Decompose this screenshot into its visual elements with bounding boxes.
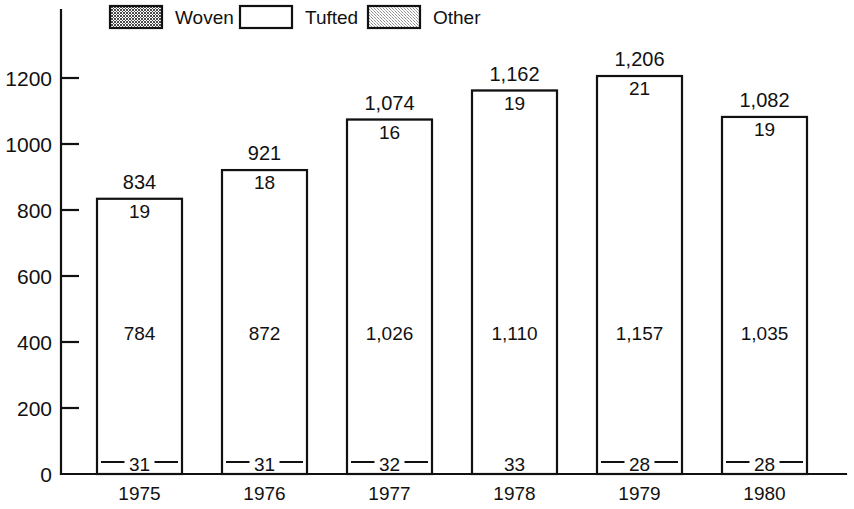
bar-segment-label-woven-1980: 19 <box>754 119 775 140</box>
bars-layer: 834197843192118872311,074161,026321,1621… <box>97 48 807 475</box>
bar-segment-label-tufted-1978: 1,110 <box>491 323 537 344</box>
bar-segment-label-tufted-1979: 1,157 <box>616 323 664 344</box>
y-tick-label-200: 200 <box>17 397 52 420</box>
x-axis-label-1975: 1975 <box>118 483 160 504</box>
bar-segment-label-other-1978: 33 <box>504 454 525 475</box>
legend-entry-woven: Woven <box>110 6 234 28</box>
bar-outline-1979 <box>597 76 682 474</box>
y-tick-label-1000: 1000 <box>5 133 52 156</box>
bar-outline-1980 <box>722 117 807 474</box>
bar-segment-label-tufted-1977: 1,026 <box>366 323 414 344</box>
x-axis-category-labels: 197519761977197819791980 <box>118 483 785 504</box>
legend-label-other: Other <box>433 7 481 28</box>
bar-group-1980: 1,082191,03528 <box>722 89 807 475</box>
bar-total-label-1977: 1,074 <box>364 92 414 114</box>
legend-label-tufted: Tufted <box>305 7 358 28</box>
chart-canvas: Woven Tufted Other 020040060080010001200… <box>0 0 854 509</box>
legend-swatch-tufted <box>240 6 292 28</box>
bar-segment-label-woven-1977: 16 <box>379 122 400 143</box>
bar-segment-label-other-1975: 31 <box>129 454 150 475</box>
bar-segment-label-woven-1978: 19 <box>504 93 525 114</box>
bar-group-1979: 1,206211,15728 <box>597 48 682 475</box>
bar-group-1978: 1,162191,11033 <box>472 63 557 475</box>
bar-segment-label-tufted-1976: 872 <box>249 323 281 344</box>
y-axis-tick-labels: 020040060080010001200 <box>5 67 52 486</box>
bar-total-label-1979: 1,206 <box>614 48 664 70</box>
bar-segment-label-woven-1976: 18 <box>254 172 275 193</box>
bar-segment-label-other-1979: 28 <box>629 454 650 475</box>
bar-segment-label-other-1976: 31 <box>254 454 275 475</box>
bar-outline-1977 <box>347 120 432 474</box>
legend-swatch-other <box>368 6 420 28</box>
x-axis-label-1977: 1977 <box>368 483 410 504</box>
bar-segment-label-other-1977: 32 <box>379 454 400 475</box>
legend-swatch-woven <box>110 6 162 28</box>
y-tick-label-600: 600 <box>17 265 52 288</box>
bar-segment-label-woven-1975: 19 <box>129 201 150 222</box>
bar-segment-label-woven-1979: 21 <box>629 78 650 99</box>
bar-segment-label-tufted-1980: 1,035 <box>741 323 789 344</box>
y-tick-label-1200: 1200 <box>5 67 52 90</box>
bar-segment-label-tufted-1975: 784 <box>124 323 156 344</box>
bar-total-label-1978: 1,162 <box>489 63 539 85</box>
bar-total-label-1980: 1,082 <box>739 89 789 111</box>
bar-outline-1978 <box>472 91 557 474</box>
bar-total-label-1975: 834 <box>123 171 156 193</box>
bar-total-label-1976: 921 <box>248 142 281 164</box>
stacked-bar-chart: Woven Tufted Other 020040060080010001200… <box>0 0 854 509</box>
x-axis-label-1978: 1978 <box>493 483 535 504</box>
bar-segment-label-other-1980: 28 <box>754 454 775 475</box>
bar-group-1975: 8341978431 <box>97 171 182 475</box>
x-axis-label-1979: 1979 <box>618 483 660 504</box>
y-tick-label-0: 0 <box>40 463 52 486</box>
chart-legend: Woven Tufted Other <box>110 6 481 28</box>
y-axis-ticks <box>61 78 79 408</box>
y-tick-label-400: 400 <box>17 331 52 354</box>
x-axis-label-1976: 1976 <box>243 483 285 504</box>
y-tick-label-800: 800 <box>17 199 52 222</box>
bar-group-1977: 1,074161,02632 <box>347 92 432 475</box>
legend-entry-other: Other <box>368 6 481 28</box>
legend-label-woven: Woven <box>175 7 234 28</box>
legend-entry-tufted: Tufted <box>240 6 358 28</box>
bar-group-1976: 9211887231 <box>222 142 307 475</box>
x-axis-label-1980: 1980 <box>743 483 785 504</box>
